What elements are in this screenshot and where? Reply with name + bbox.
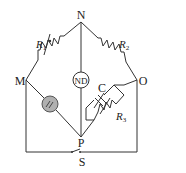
switch-label: S xyxy=(79,155,86,169)
r3-label: R3 xyxy=(115,110,127,124)
null-detector: ND xyxy=(73,72,89,88)
node-label-p: P xyxy=(78,136,85,150)
c-label: C xyxy=(98,81,106,95)
r1-label: R1 xyxy=(35,38,47,52)
node-label-n: N xyxy=(77,8,86,22)
node-label-o: O xyxy=(139,74,148,88)
bridge-circuit-diagram: ND N M O P S R1 R2 R3 C xyxy=(0,0,186,173)
node-label-m: M xyxy=(15,74,26,88)
c-r3-parallel xyxy=(81,80,137,137)
r2-label: R2 xyxy=(118,38,130,52)
ac-source xyxy=(42,96,58,112)
detector-label: ND xyxy=(75,76,88,86)
r1-resistor xyxy=(26,22,81,80)
